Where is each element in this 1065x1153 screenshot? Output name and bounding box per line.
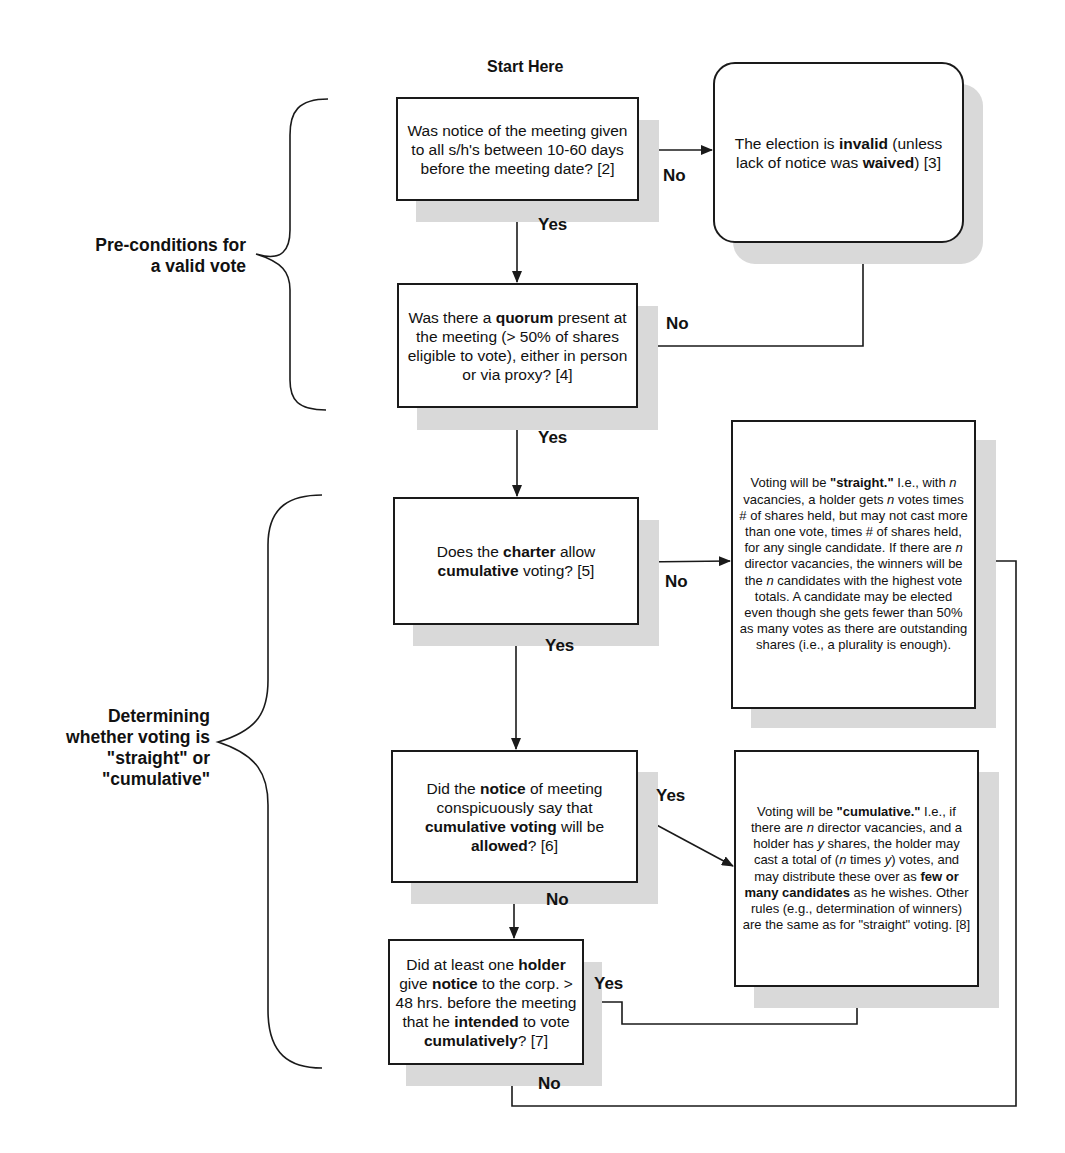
section-label-preconditions: Pre-conditions for a valid vote — [56, 235, 246, 277]
node-text: Does the charter allow cumulative voting… — [403, 542, 629, 580]
section-label-determining: Determining whether voting is "straight"… — [20, 706, 210, 790]
section-label-line: "cumulative" — [20, 769, 210, 790]
node-charter-question: Does the charter allow cumulative voting… — [393, 497, 639, 625]
node-text: The election is invalid (unless lack of … — [723, 134, 954, 172]
node-cumulative-result: Voting will be "cumulative." I.e., if th… — [734, 750, 979, 987]
edge-label-holder-yes: Yes — [594, 974, 623, 994]
node-straight-result: Voting will be "straight." I.e., with n … — [731, 420, 976, 709]
edge-label-notice-no: No — [663, 166, 686, 186]
section-label-line: Determining — [20, 706, 210, 727]
brace-preconditions — [256, 99, 328, 410]
edge-label-quorum-yes: Yes — [538, 428, 567, 448]
brace-determining — [218, 495, 322, 1068]
node-quorum-question: Was there a quorum present at the meetin… — [397, 283, 638, 408]
section-label-line: a valid vote — [56, 256, 246, 277]
node-notice-question: Was notice of the meeting given to all s… — [396, 97, 639, 201]
section-label-line: whether voting is — [20, 727, 210, 748]
edge-label-notice-cumulative-no: No — [546, 890, 569, 910]
node-text: Voting will be "cumulative." I.e., if th… — [742, 804, 971, 934]
section-label-line: "straight" or — [20, 748, 210, 769]
section-label-line: Pre-conditions for — [56, 235, 246, 256]
node-holder-question: Did at least one holder give notice to t… — [388, 939, 584, 1065]
node-text: Was there a quorum present at the meetin… — [407, 308, 628, 384]
edge-label-quorum-no: No — [666, 314, 689, 334]
node-notice-cumulative-question: Did the notice of meeting conspicuously … — [391, 750, 638, 883]
edge-label-notice-yes: Yes — [538, 215, 567, 235]
node-text: Voting will be "straight." I.e., with n … — [739, 475, 968, 653]
edge-label-notice-cumulative-yes: Yes — [656, 786, 685, 806]
edge-label-charter-yes: Yes — [545, 636, 574, 656]
node-invalid-result: The election is invalid (unless lack of … — [713, 62, 964, 243]
node-text: Was notice of the meeting given to all s… — [406, 121, 629, 178]
node-text: Did the notice of meeting conspicuously … — [401, 779, 628, 855]
node-text: Did at least one holder give notice to t… — [394, 955, 578, 1050]
edge-label-charter-no: No — [665, 572, 688, 592]
edge-label-holder-no: No — [538, 1074, 561, 1094]
